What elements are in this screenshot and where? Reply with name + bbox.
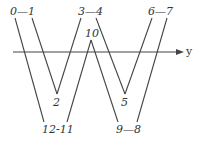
- vertex-label-3-4: 3—4: [78, 5, 103, 18]
- segment-0-12: [15, 18, 44, 122]
- segment-1-2: [32, 18, 57, 94]
- segment-8-7: [137, 18, 167, 122]
- segment-2-3: [57, 18, 81, 94]
- vertex-label-6-7: 6—7: [148, 5, 173, 18]
- zigzag-diagram: y 0—1 3—4 6—7 10 2 5 12-11 9—8: [0, 0, 199, 145]
- segment-4-5: [96, 18, 125, 94]
- vertex-label-2: 2: [52, 96, 60, 109]
- vertex-label-0-1: 0—1: [10, 5, 35, 18]
- vertex-label-10: 10: [85, 27, 99, 40]
- axis-arrow-icon: [176, 49, 184, 55]
- axis-label-y: y: [185, 45, 193, 58]
- vertex-label-9-8: 9—8: [116, 123, 141, 136]
- vertex-label-5: 5: [121, 96, 128, 109]
- vertex-label-12-11: 12-11: [42, 123, 74, 136]
